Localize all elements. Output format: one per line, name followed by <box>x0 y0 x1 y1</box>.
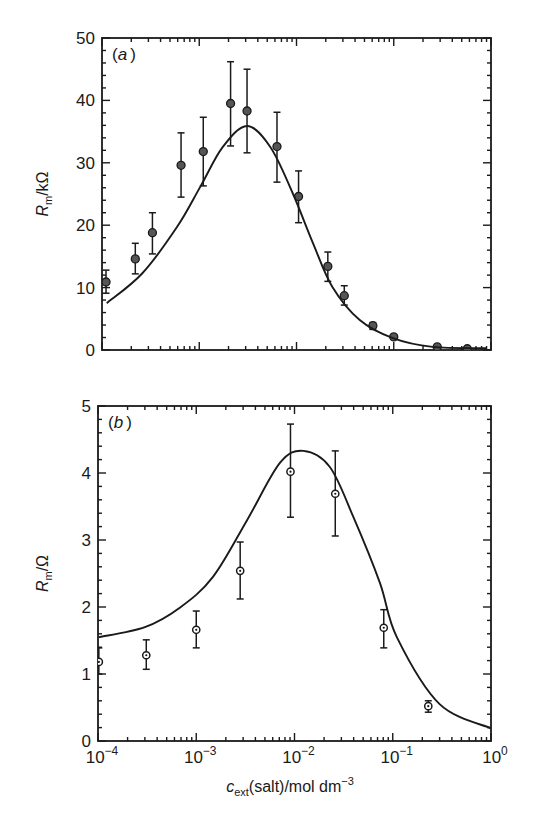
data-point <box>425 701 432 712</box>
y-tick-label: 10 <box>76 279 95 298</box>
y-tick-label: 1 <box>82 665 91 684</box>
y-axis-title: Rm/Ω <box>34 555 54 592</box>
y-tick-label: 0 <box>86 341 95 360</box>
data-point <box>177 133 185 197</box>
y-tick-label: 2 <box>82 598 91 617</box>
data-point <box>102 270 110 293</box>
marker <box>199 148 207 156</box>
x-tick-label: 10−2 <box>282 744 315 767</box>
marker <box>148 229 156 237</box>
marker <box>177 161 185 169</box>
panel-a-chart: 01020304050(a)Rm/kΩ <box>34 29 491 360</box>
y-tick-label: 4 <box>82 464 91 483</box>
marker <box>340 292 348 300</box>
data-point <box>332 451 339 536</box>
fit-curve <box>107 126 487 348</box>
x-tick-label: 10−1 <box>380 744 413 767</box>
x-axis-title-subscript: ext <box>234 786 249 798</box>
figure: 01020304050(a)Rm/kΩ 01234510−410−310−210… <box>0 0 537 820</box>
data-point <box>95 648 102 674</box>
data-point <box>148 213 156 254</box>
x-tick-label: 100 <box>482 744 508 767</box>
data-point <box>380 610 387 648</box>
panel-b-chart: 01234510−410−310−210−1100(b)Rm/Ω <box>34 397 508 767</box>
data-point <box>193 611 200 648</box>
data-point <box>287 424 294 517</box>
marker <box>243 107 251 115</box>
x-axis-title-main: c <box>226 778 234 795</box>
fit-curve <box>99 451 491 729</box>
x-axis-title: cext(salt)/mol dm−3 <box>226 775 354 798</box>
panel-label: (b) <box>108 413 132 432</box>
y-axis-title: Rm/kΩ <box>34 171 54 216</box>
y-tick-label: 30 <box>76 154 95 173</box>
data-point <box>273 112 281 182</box>
y-tick-label: 20 <box>76 216 95 235</box>
plot-area <box>95 424 491 728</box>
axis-ticks <box>98 406 491 741</box>
marker <box>273 143 281 151</box>
y-tick-label: 5 <box>82 397 91 416</box>
x-axis-title-rest: (salt)/mol dm <box>249 778 341 795</box>
marker <box>131 255 139 263</box>
y-tick-label: 3 <box>82 531 91 550</box>
data-point <box>131 243 139 274</box>
marker <box>324 262 332 270</box>
data-point <box>143 640 150 669</box>
plot-frame <box>98 406 491 741</box>
y-tick-label: 50 <box>76 29 95 48</box>
marker <box>227 100 235 108</box>
x-tick-label: 10−4 <box>86 744 119 767</box>
panel-label: (a) <box>112 45 136 64</box>
plot-area <box>102 62 487 353</box>
data-point <box>237 542 244 599</box>
data-point <box>243 69 251 153</box>
data-point <box>340 286 348 305</box>
marker <box>102 278 110 286</box>
x-axis-title-superscript: −3 <box>341 775 354 787</box>
y-tick-label: 40 <box>76 91 95 110</box>
x-tick-label: 10−3 <box>184 744 217 767</box>
